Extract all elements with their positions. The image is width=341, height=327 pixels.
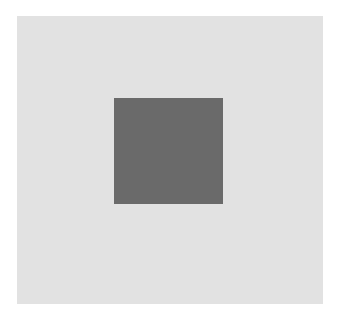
inner-dark-gray-square: [114, 98, 223, 204]
